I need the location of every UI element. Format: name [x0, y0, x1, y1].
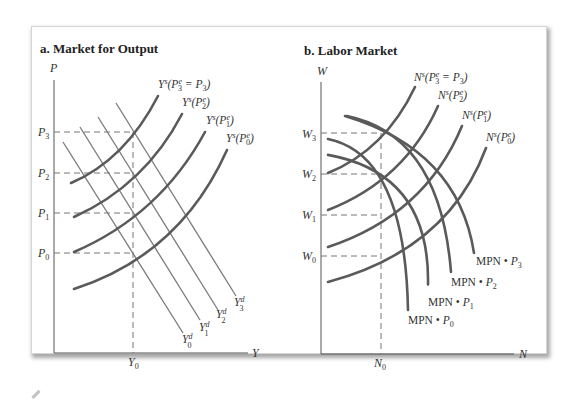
- y-tick-p0: P0: [37, 246, 49, 262]
- label-ns-p3: Ns(Pe3 = P3): [413, 70, 468, 86]
- demand-line-yd1: [80, 127, 200, 320]
- panel-b-title: b. Labor Market: [304, 43, 398, 58]
- svg-text:W3: W3: [302, 127, 316, 143]
- x-tick-y0: Y0: [128, 355, 139, 371]
- svg-text:P1: P1: [37, 206, 49, 222]
- label-ns-p1: Ns(Pe1): [461, 108, 491, 124]
- y-axis-label: P: [49, 61, 58, 75]
- y-tick-w2: W2: [302, 167, 316, 183]
- supply-curve-ys-p3: [71, 96, 158, 183]
- label-yd3: Yd3: [234, 295, 245, 313]
- svg-text:W0: W0: [302, 249, 316, 265]
- y-axis-label: W: [317, 64, 328, 78]
- y-tick-p3: P3: [37, 125, 49, 141]
- label-mpn-p3: MPN • P3: [476, 255, 522, 270]
- x-axis-label: N: [518, 347, 528, 361]
- svg-text:N0: N0: [373, 356, 386, 372]
- label-yd0: Yd0: [182, 332, 193, 350]
- label-ys-p2: Ys(Pe2): [182, 95, 210, 111]
- panel-labor-market: b. Labor Market W N W3 W2 W1 W0 N0: [302, 43, 528, 372]
- y-tick-w1: W1: [302, 208, 316, 224]
- svg-text:W2: W2: [302, 167, 316, 183]
- svg-text:Y0: Y0: [128, 355, 139, 371]
- label-ys-p1: Ys(Pe1): [206, 113, 234, 129]
- x-tick-n0: N0: [373, 356, 386, 372]
- label-mpn-p1: MPN • P1: [428, 296, 474, 311]
- label-yd1: Yd1: [199, 320, 210, 338]
- y-tick-w0: W0: [302, 249, 316, 265]
- panel-market-for-output: a. Market for Output P Y P3 P2 P1 P0 Y0: [37, 41, 260, 371]
- label-ys-p0: Ys(Pe0): [226, 131, 254, 147]
- svg-text:W1: W1: [302, 208, 316, 224]
- label-ys-p3: Ys(Pe3 = P3): [158, 77, 211, 93]
- figure-svg: a. Market for Output P Y P3 P2 P1 P0 Y0: [0, 0, 568, 402]
- y-tick-p1: P1: [37, 206, 49, 222]
- supply-curve-ys-p0: [74, 150, 227, 289]
- svg-text:P0: P0: [37, 246, 49, 262]
- label-mpn-p2: MPN • P2: [451, 276, 497, 291]
- y-tick-w3: W3: [302, 127, 316, 143]
- svg-text:P3: P3: [37, 125, 49, 141]
- mpn-curve-p0: [328, 139, 408, 310]
- y-tick-p2: P2: [37, 166, 49, 182]
- panel-a-title: a. Market for Output: [40, 41, 159, 56]
- label-ns-p2: Ns(Pe2): [437, 88, 467, 104]
- svg-text:P2: P2: [37, 166, 49, 182]
- label-ns-p0: Ns(Pe0): [485, 130, 515, 146]
- label-yd2: Yd2: [216, 307, 227, 325]
- label-mpn-p0: MPN • P0: [408, 314, 454, 329]
- x-axis-label: Y: [252, 346, 260, 360]
